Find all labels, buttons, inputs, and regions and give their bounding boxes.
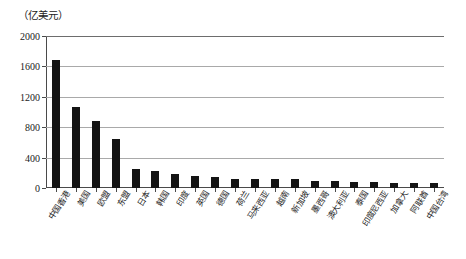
x-axis-label: 泰国 — [355, 190, 371, 208]
x-axis-label: 韩国 — [156, 190, 172, 208]
x-axis-label: 美国 — [76, 190, 92, 208]
bar-chart-figure: （亿美元） 0400800120016002000 中国香港美国欧盟东盟日本韩国… — [0, 0, 466, 259]
x-axis-label: 新加坡 — [291, 190, 311, 215]
y-axis-unit-label: （亿美元） — [18, 7, 68, 22]
bar — [72, 107, 80, 188]
bar — [311, 181, 319, 188]
x-axis-label: 东盟 — [116, 190, 132, 208]
bar — [92, 121, 100, 188]
y-tick-mark — [42, 97, 46, 98]
x-axis-category-labels: 中国香港美国欧盟东盟日本韩国印度英国德国荷兰马来西亚越南新加坡墨西哥澳大利亚泰国… — [46, 190, 466, 259]
y-tick-mark — [42, 66, 46, 67]
gridline — [46, 36, 444, 37]
y-tick-label: 800 — [25, 122, 40, 133]
y-tick-mark — [42, 158, 46, 159]
bar — [271, 179, 279, 188]
bar — [112, 139, 120, 188]
bar — [151, 171, 159, 188]
x-axis-label: 日本 — [136, 190, 152, 208]
x-axis-label: 英国 — [196, 190, 212, 208]
y-tick-label: 1200 — [20, 91, 40, 102]
y-tick-label: 2000 — [20, 31, 40, 42]
bar — [251, 179, 259, 188]
y-tick-label: 400 — [25, 152, 40, 163]
bar — [331, 181, 339, 188]
gridline — [46, 66, 444, 67]
y-tick-label: 0 — [35, 183, 40, 194]
bar — [291, 179, 299, 188]
gridline — [46, 158, 444, 159]
x-axis-label: 欧盟 — [96, 190, 112, 208]
gridline — [46, 97, 444, 98]
plot-area: 0400800120016002000 — [46, 36, 444, 188]
bar — [171, 174, 179, 188]
bar — [52, 60, 60, 188]
x-axis-label: 荷兰 — [236, 190, 252, 208]
bar — [211, 177, 219, 188]
bar — [132, 169, 140, 188]
x-axis-label: 德国 — [216, 190, 232, 208]
bar — [191, 176, 199, 188]
y-tick-mark — [42, 127, 46, 128]
gridline — [46, 127, 444, 128]
y-tick-label: 1600 — [20, 61, 40, 72]
x-axis-label: 印度 — [176, 190, 192, 208]
x-axis-label: 中国香港 — [48, 190, 72, 222]
x-axis-label: 加拿大 — [391, 190, 411, 215]
bar — [231, 179, 239, 189]
plot-frame — [46, 36, 444, 188]
y-tick-mark — [42, 36, 46, 37]
x-axis-label: 越南 — [275, 190, 291, 208]
y-tick-mark — [42, 188, 46, 189]
